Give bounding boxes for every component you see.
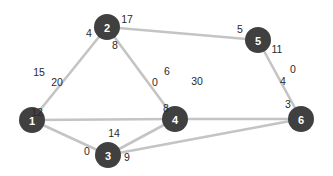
edge-weight-label: 12 (31, 106, 43, 118)
edge-weight-label: 15 (33, 66, 45, 78)
edge-weight-label: 14 (108, 127, 120, 139)
edge-weight-label: 0 (84, 145, 90, 157)
edge-weight-label: 6 (164, 65, 170, 77)
node-label: 5 (255, 35, 261, 47)
edge-1-4 (32, 119, 175, 120)
graph-diagram: 123456 1520124178014906308511043 (0, 0, 333, 176)
node-label: 2 (104, 22, 110, 34)
node-label: 4 (172, 114, 179, 126)
edge-weight-label: 4 (86, 27, 92, 39)
edge-2-5 (107, 27, 258, 40)
node-3: 3 (95, 142, 121, 168)
node-6: 6 (288, 106, 314, 132)
node-label: 6 (298, 114, 304, 126)
edge-weight-label: 0 (290, 63, 296, 75)
edge-weight-label: 4 (280, 75, 286, 87)
node-5: 5 (245, 27, 271, 53)
edge-weight-label: 3 (285, 98, 291, 110)
edge-weight-label: 5 (237, 23, 243, 35)
edge-weight-label: 8 (112, 39, 118, 51)
edge-weight-label: 0 (152, 76, 158, 88)
edge-weight-label: 11 (272, 43, 283, 55)
edge-weight-label: 20 (51, 76, 63, 88)
edge-weight-label: 9 (124, 151, 130, 163)
node-label: 3 (105, 150, 111, 162)
node-2: 2 (94, 14, 120, 40)
edge-3-6 (108, 119, 301, 155)
edge-weight-label: 30 (191, 75, 203, 87)
edge-weight-label: 17 (121, 13, 133, 25)
edge-weight-label: 8 (163, 102, 169, 114)
